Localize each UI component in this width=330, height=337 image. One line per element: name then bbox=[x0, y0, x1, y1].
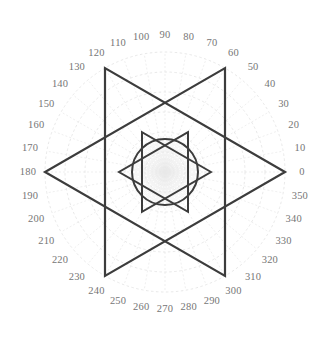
theta-tick-label-300: 300 bbox=[225, 285, 241, 296]
theta-tick-label-330: 330 bbox=[275, 235, 291, 246]
grid-spoke bbox=[52, 131, 165, 172]
theta-tick-label-280: 280 bbox=[181, 302, 197, 313]
theta-tick-label-140: 140 bbox=[52, 79, 68, 90]
theta-tick-label-100: 100 bbox=[133, 32, 149, 43]
theta-tick-label-180: 180 bbox=[20, 167, 36, 178]
theta-tick-label-290: 290 bbox=[204, 295, 220, 306]
theta-tick-label-0: 0 bbox=[299, 167, 304, 178]
theta-tick-label-110: 110 bbox=[110, 38, 126, 49]
theta-tick-label-210: 210 bbox=[38, 235, 54, 246]
theta-tick-label-220: 220 bbox=[52, 255, 68, 266]
theta-tick-label-90: 90 bbox=[160, 30, 171, 41]
polar-chart: 0102030405060708090100110120130140150160… bbox=[0, 0, 330, 337]
theta-tick-label-120: 120 bbox=[88, 48, 104, 59]
theta-tick-label-10: 10 bbox=[294, 143, 305, 154]
theta-tick-label-240: 240 bbox=[88, 285, 104, 296]
theta-tick-label-310: 310 bbox=[245, 272, 261, 283]
theta-tick-label-230: 230 bbox=[69, 272, 85, 283]
polar-grid bbox=[45, 52, 285, 292]
theta-tick-label-260: 260 bbox=[133, 302, 149, 313]
polar-plot-canvas bbox=[0, 0, 330, 337]
theta-tick-label-130: 130 bbox=[69, 62, 85, 73]
theta-tick-label-190: 190 bbox=[22, 191, 38, 202]
theta-tick-label-350: 350 bbox=[292, 191, 308, 202]
theta-tick-label-160: 160 bbox=[28, 120, 44, 131]
theta-tick-label-150: 150 bbox=[38, 98, 54, 109]
theta-tick-label-170: 170 bbox=[22, 143, 38, 154]
theta-tick-label-270: 270 bbox=[157, 304, 173, 315]
theta-tick-label-70: 70 bbox=[206, 38, 217, 49]
grid-radial-spokes bbox=[45, 52, 285, 292]
theta-tick-label-40: 40 bbox=[264, 79, 275, 90]
theta-tick-label-320: 320 bbox=[262, 255, 278, 266]
theta-tick-label-80: 80 bbox=[183, 32, 194, 43]
theta-tick-label-20: 20 bbox=[288, 120, 299, 131]
theta-tick-label-250: 250 bbox=[110, 295, 126, 306]
theta-tick-label-60: 60 bbox=[228, 48, 239, 59]
theta-tick-label-30: 30 bbox=[278, 98, 289, 109]
theta-tick-label-340: 340 bbox=[286, 214, 302, 225]
theta-tick-label-200: 200 bbox=[28, 214, 44, 225]
theta-tick-label-50: 50 bbox=[248, 62, 259, 73]
